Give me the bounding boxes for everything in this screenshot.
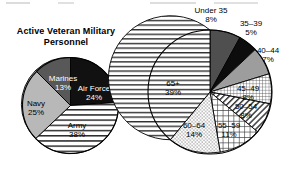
label-navy-name: Navy [19,99,53,108]
label-65-plus-name: 65+ [155,79,191,88]
veteran-age-pie-chart: 65+ 39% 60–64 14% 55–59 11% 50–54 8% 45–… [143,0,287,172]
label-navy: Navy 25% [19,99,53,117]
label-marines-name: Marines [41,74,85,83]
label-air-force-pct: 24% [72,93,116,102]
label-55-59-name: 55–59 [211,121,247,130]
label-under-35-pct: 8% [187,15,235,24]
label-45-49: 45–49 8% [230,84,266,102]
left-chart-title: Active Veteran Military Personnel [6,26,126,48]
label-45-49-name: 45–49 [230,84,266,93]
label-army-name: Army [60,121,94,130]
figure-root: Active Veteran Military Personnel [0,0,287,172]
label-40-44-name: 40–44 [251,46,285,55]
label-50-54: 50–54 8% [228,102,264,120]
label-60-64-name: 60–64 [176,121,212,130]
label-55-59: 55–59 11% [211,121,247,139]
label-40-44: 40–44 7% [251,46,285,64]
label-navy-pct: 25% [19,108,53,117]
label-army: Army 38% [60,121,94,139]
label-50-54-name: 50–54 [228,102,264,111]
label-35-39: 35–39 5% [234,19,268,37]
label-40-44-pct: 7% [251,55,285,64]
label-35-39-pct: 5% [234,28,268,37]
label-65-plus: 65+ 39% [155,79,191,97]
label-65-plus-pct: 39% [155,88,191,97]
left-pie-graphic: Marines 13% Air Force 24% Navy 25% Army … [22,57,119,154]
label-50-54-pct: 8% [228,111,264,120]
label-35-39-name: 35–39 [234,19,268,28]
label-under-35-name: Under 35 [187,6,235,15]
label-55-59-pct: 11% [211,130,247,139]
label-under-35: Under 35 8% [187,6,235,24]
label-45-49-pct: 8% [230,93,266,102]
label-60-64: 60–64 14% [176,121,212,139]
left-chart-title-line1: Active Veteran [17,26,80,36]
label-army-pct: 38% [60,130,94,139]
label-60-64-pct: 14% [176,130,212,139]
